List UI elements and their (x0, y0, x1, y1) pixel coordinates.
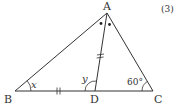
label-a: A (102, 0, 112, 13)
angle-label-y: y (81, 73, 88, 84)
angle-label-x: x (31, 79, 37, 90)
segment-ab (15, 13, 107, 91)
problem-number: (3) (161, 4, 174, 14)
bisector-dot-left (100, 22, 103, 25)
angle-label-60: 60° (127, 77, 143, 87)
bisector-dot-right (108, 23, 111, 26)
label-c: C (154, 93, 162, 105)
geometry-figure: A B D C x y 60° (3) (0, 0, 178, 105)
label-d: D (90, 93, 99, 105)
label-b: B (4, 93, 12, 105)
